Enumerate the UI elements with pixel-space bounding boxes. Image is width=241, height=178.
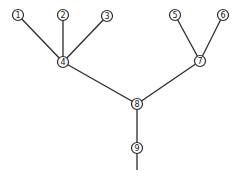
node-label: 7 (197, 57, 202, 66)
node-9: 9 (132, 143, 143, 154)
edges-layer (18, 15, 223, 170)
edge-7-8 (137, 61, 200, 104)
node-5: 5 (170, 10, 181, 21)
node-label: 3 (104, 12, 109, 21)
node-8: 8 (132, 99, 143, 110)
node-label: 8 (134, 100, 139, 109)
edge-3-4 (63, 16, 107, 62)
edge-5-7 (175, 15, 200, 61)
node-label: 2 (60, 11, 65, 20)
node-label: 5 (172, 11, 177, 20)
node-1: 1 (13, 10, 24, 21)
tree-diagram: 123456789 (0, 0, 241, 178)
edge-1-4 (18, 15, 63, 62)
node-4: 4 (58, 57, 69, 68)
edge-6-7 (200, 15, 223, 61)
node-label: 9 (134, 144, 139, 153)
node-label: 4 (60, 58, 65, 67)
node-label: 1 (15, 11, 20, 20)
tree-diagram-canvas: 123456789 (0, 0, 241, 178)
nodes-layer: 123456789 (13, 10, 229, 154)
node-3: 3 (102, 11, 113, 22)
node-2: 2 (58, 10, 69, 21)
node-6: 6 (218, 10, 229, 21)
edge-4-8 (63, 62, 137, 104)
node-7: 7 (195, 56, 206, 67)
node-label: 6 (220, 11, 225, 20)
